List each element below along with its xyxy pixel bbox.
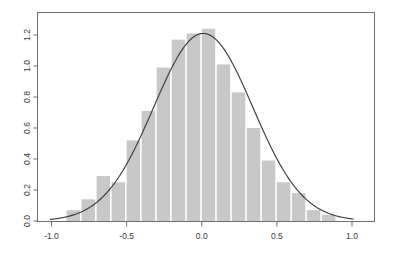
y-axis-tick-label: 1.0 [22, 60, 32, 72]
x-axis: -1.0-0.50.00.51.0 [44, 222, 358, 242]
histogram-bar [82, 199, 95, 221]
histogram-bar [232, 92, 245, 221]
y-axis-tick-label: 0.4 [22, 153, 32, 165]
histogram-bar [247, 128, 260, 221]
histogram-bar [307, 210, 320, 221]
histogram-bar [172, 40, 185, 221]
x-axis-tick-label: -1.0 [44, 231, 59, 241]
density-histogram-plot: 0.00.20.40.60.81.01.2 -1.0-0.50.00.51.0 [0, 0, 393, 256]
histogram-bar [97, 176, 110, 221]
histogram-bar [277, 182, 290, 221]
histogram-bar [157, 68, 170, 221]
histogram-bar [67, 210, 80, 221]
histogram-bar [142, 111, 155, 221]
histogram-bar [322, 215, 335, 221]
histogram-bar [202, 29, 215, 221]
y-axis-tick-label: 1.2 [22, 29, 32, 41]
y-axis-tick-label: 0.2 [22, 184, 32, 196]
y-axis: 0.00.20.40.60.81.01.2 [22, 29, 38, 227]
plot-canvas: 0.00.20.40.60.81.01.2 -1.0-0.50.00.51.0 [0, 0, 393, 256]
y-axis-tick-label: 0.0 [22, 215, 32, 227]
histogram-bar [187, 33, 200, 221]
x-axis-tick-label: 1.0 [346, 231, 358, 241]
x-axis-tick-label: 0.5 [271, 231, 283, 241]
x-axis-tick-label: 0.0 [196, 231, 208, 241]
histogram-bar [112, 182, 125, 221]
y-axis-tick-label: 0.6 [22, 122, 32, 134]
histogram-bar [262, 161, 275, 221]
y-axis-tick-label: 0.8 [22, 91, 32, 103]
x-axis-tick-label: -0.5 [119, 231, 134, 241]
histogram-bar [217, 64, 230, 221]
